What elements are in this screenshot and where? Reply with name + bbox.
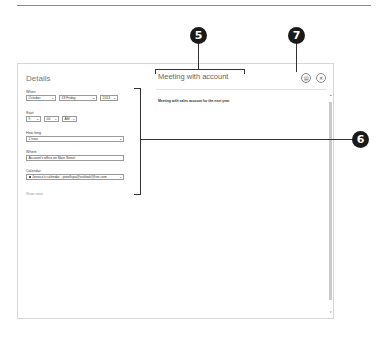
chevron-down-icon: ⌄ (92, 96, 95, 101)
how-long-label: How long (26, 131, 41, 135)
where-label: Where (26, 150, 37, 154)
show-more-link[interactable]: Show more (26, 192, 43, 196)
ampm-select[interactable]: AM ⌄ (62, 116, 77, 122)
event-description[interactable]: Meeting with sales account for the next … (158, 99, 229, 103)
duration-value: 1 hour (29, 137, 39, 141)
minute-value: 00 (47, 117, 51, 121)
callout-6-leader (140, 139, 353, 140)
chevron-down-icon: ⌄ (36, 117, 39, 122)
when-label: When (26, 90, 35, 94)
chevron-down-icon: ⌄ (113, 96, 116, 101)
callout-6-bracket-bottom (134, 194, 141, 195)
calendar-label: Calendar (26, 169, 41, 173)
scrollbar[interactable]: ▴ ▾ (329, 94, 332, 314)
calendar-color-icon (29, 176, 31, 178)
hour-value: 9 (29, 117, 31, 121)
event-dialog: Details When October ⌄ 18 Friday ⌄ 2013 … (17, 63, 334, 319)
callout-6: 6 (352, 131, 369, 148)
month-value: October (29, 96, 41, 100)
close-icon: ✕ (319, 75, 323, 81)
duration-select[interactable]: 1 hour ⌄ (26, 136, 124, 142)
ampm-value: AM (65, 117, 70, 121)
chevron-down-icon: ⌄ (119, 137, 122, 142)
day-select[interactable]: 18 Friday ⌄ (59, 95, 97, 101)
day-value: 18 Friday (62, 96, 76, 100)
editor-pane: Meeting with account ▤ ✕ Meeting with sa… (148, 64, 333, 318)
callout-6-bracket (140, 88, 141, 195)
top-divider (17, 5, 371, 6)
details-heading: Details (26, 74, 50, 83)
chevron-down-icon: ⌄ (51, 96, 54, 101)
start-label: Start (26, 111, 34, 115)
close-button[interactable]: ✕ (316, 73, 326, 83)
callout-7-stem (296, 44, 297, 72)
scroll-up-arrow-icon[interactable]: ▴ (329, 94, 332, 97)
callout-5-stem (198, 44, 199, 70)
calendar-value: Jessica's calendar - ipwellspa@outlook@l… (32, 175, 107, 179)
save-icon: ▤ (304, 75, 309, 81)
chevron-down-icon: ⌄ (119, 175, 122, 180)
where-input[interactable]: Account's office on Main Street (26, 155, 124, 161)
callout-7: 7 (288, 27, 305, 44)
month-select[interactable]: October ⌄ (26, 95, 56, 101)
details-pane: Details When October ⌄ 18 Friday ⌄ 2013 … (18, 64, 148, 318)
title-divider (156, 89, 327, 90)
chevron-down-icon: ⌄ (72, 117, 75, 122)
callout-6-bracket-top (134, 88, 141, 89)
callout-5: 5 (190, 27, 207, 44)
chevron-down-icon: ⌄ (54, 117, 57, 122)
event-title-input[interactable]: Meeting with account (158, 72, 228, 81)
minute-select[interactable]: 00 ⌄ (44, 116, 59, 122)
scroll-down-arrow-icon[interactable]: ▾ (329, 311, 332, 314)
year-select[interactable]: 2013 ⌄ (100, 95, 118, 101)
callout-5-bracket-left (155, 69, 156, 74)
scroll-thumb[interactable] (329, 102, 332, 300)
hour-select[interactable]: 9 ⌄ (26, 116, 41, 122)
callout-5-bracket-right (244, 69, 245, 74)
calendar-select[interactable]: Jessica's calendar - ipwellspa@outlook@l… (26, 174, 124, 180)
callout-5-bracket (155, 69, 245, 70)
save-button[interactable]: ▤ (301, 73, 311, 83)
year-value: 2013 (103, 96, 111, 100)
